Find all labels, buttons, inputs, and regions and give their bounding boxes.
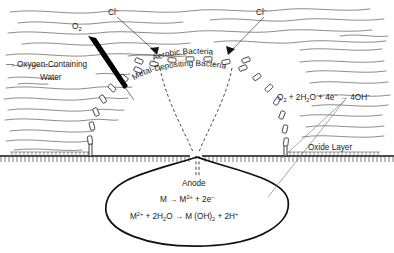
oxide-layer-text: Oxide Layer (308, 143, 352, 152)
bacteria-rods-dome (87, 57, 288, 147)
equation-cathode: O2 + 2H2O + 4e− → 4OH− (277, 92, 370, 103)
anode-text: Anode (182, 179, 206, 188)
label-metal-depositing-bacteria: Metal-Depositing Bacteria (131, 59, 228, 82)
cl-left-text: Cl (108, 8, 116, 17)
water-wavy-lines (4, 9, 390, 151)
water-label-line1: Oxygen-Containing (17, 60, 88, 69)
cathode-equation: O2 + 2H2O + 4e− → 4OH− (277, 92, 370, 103)
anode-equation-1: M → M2+ + 2e− (160, 194, 215, 204)
chloride-right-arrow (226, 17, 264, 55)
water-dash-mark: — (6, 60, 15, 69)
corrosion-diagram: O2 Cl− Cl− — Oxygen-Containing Water Aer… (0, 0, 394, 253)
label-anode: Anode (182, 179, 206, 188)
water-label-line2: Water (40, 73, 62, 82)
cl-left-superscript: − (116, 7, 119, 13)
label-chloride-right: Cl− (256, 7, 267, 17)
anode-equation-2: M2+ + 2H2O → M (OH)2 + 2H+ (130, 211, 238, 222)
label-o2: O2 (72, 22, 82, 32)
metal-depositing-bacteria-text: Metal-Depositing Bacteria (131, 59, 228, 82)
svg-text:O2: O2 (72, 22, 82, 32)
cl-right-text: Cl (256, 8, 264, 17)
o2-subscript: 2 (78, 26, 81, 32)
svg-text:Metal-Depositing Bacteria: Metal-Depositing Bacteria (131, 59, 228, 82)
equation-anode-2: M2+ + 2H2O → M (OH)2 + 2H+ (130, 211, 238, 222)
label-chloride-left: Cl− (108, 7, 119, 17)
label-oxygen-containing-water: — Oxygen-Containing Water (6, 60, 88, 82)
svg-text:Cl−: Cl− (256, 7, 267, 17)
equation-anode-1: M → M2+ + 2e− (160, 194, 215, 204)
label-oxide-layer: Oxide Layer (308, 143, 352, 152)
svg-text:Cl−: Cl− (108, 7, 119, 17)
cl-right-superscript: − (264, 7, 267, 13)
